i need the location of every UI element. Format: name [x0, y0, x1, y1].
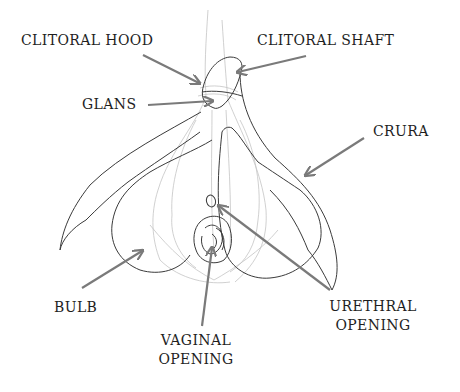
sketch-guide-lines	[150, 10, 278, 283]
label-urethral-opening: URETHRAL OPENING	[318, 297, 428, 335]
label-bulb: BULB	[54, 298, 97, 317]
label-urethral-opening-line1: URETHRAL	[318, 297, 428, 316]
label-vaginal-opening: VAGINAL OPENING	[146, 331, 246, 369]
label-vaginal-opening-line1: VAGINAL	[146, 331, 246, 350]
arrow-bulb	[82, 251, 142, 288]
label-crura: CRURA	[373, 122, 429, 141]
left-crus	[60, 112, 201, 250]
urethral-opening-shape	[205, 194, 217, 208]
arrow-crura	[306, 138, 364, 175]
anatomy-outline	[60, 57, 337, 290]
arrow-clitoral-hood	[143, 55, 199, 83]
label-clitoral-hood: CLITORAL HOOD	[21, 31, 153, 50]
arrow-clitoral-shaft	[238, 56, 306, 72]
label-urethral-opening-line2: OPENING	[318, 316, 428, 335]
label-vaginal-opening-line2: OPENING	[146, 350, 246, 369]
label-glans: GLANS	[82, 95, 136, 114]
right-bulb	[218, 127, 321, 278]
label-clitoral-shaft: CLITORAL SHAFT	[257, 31, 394, 50]
